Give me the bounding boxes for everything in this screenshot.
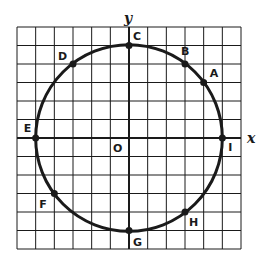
point-marker (51, 190, 58, 197)
point-label: D (58, 50, 67, 63)
coordinate-diagram: ABCDEFGHI x y O (0, 0, 269, 260)
point-label: H (189, 216, 198, 229)
origin-label: O (113, 142, 122, 155)
point-label: A (210, 67, 219, 80)
x-axis-label: x (246, 130, 256, 146)
point-a: A (200, 67, 219, 87)
y-axis-label: y (123, 10, 133, 26)
point-marker (70, 61, 77, 68)
point-label: G (133, 236, 142, 249)
point-marker (200, 79, 207, 86)
point-marker (126, 227, 133, 234)
point-b: B (181, 45, 189, 68)
point-label: E (24, 122, 32, 135)
point-marker (182, 209, 189, 216)
axes (17, 27, 241, 249)
point-marker (182, 61, 189, 68)
point-label: C (133, 30, 141, 43)
point-d: D (58, 50, 77, 68)
point-marker (126, 42, 133, 49)
point-label: F (39, 198, 47, 211)
point-marker (219, 135, 226, 142)
point-label: I (228, 141, 232, 154)
point-marker (32, 135, 39, 142)
point-label: B (181, 45, 189, 58)
